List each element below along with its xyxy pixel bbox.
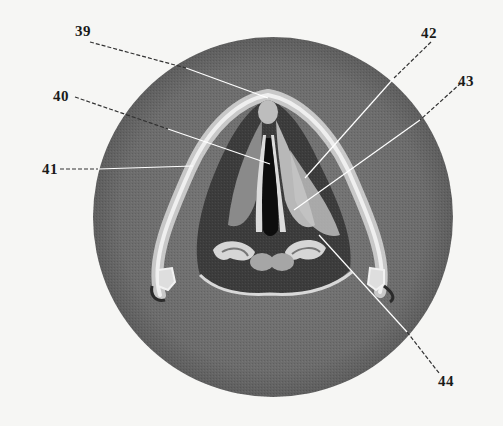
epiglottis-tubercle [258,100,278,124]
label-43: 43 [458,74,474,89]
label-40: 40 [53,89,69,104]
label-39: 39 [75,24,91,39]
label-41: 41 [42,162,58,177]
label-44: 44 [438,374,454,389]
label-42: 42 [421,26,437,41]
larynx-illustration [0,0,503,426]
larynx-diagram: 39 40 41 42 43 44 [0,0,503,426]
